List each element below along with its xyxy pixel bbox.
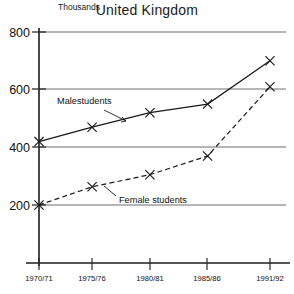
x-tick-label-1985-86: 1985/86 [193,274,220,283]
data-point-marker [88,123,97,132]
chart-plot-area: 800 600 400 200 1970/71 1975/76 1980/81 … [0,0,294,294]
y-tick-label-800: 800 [9,26,30,40]
x-tick-label-1991-92: 1991/92 [256,274,283,283]
chart-container: United Kingdom Thousands 800 600 400 200… [0,0,294,294]
y-tick-label-600: 600 [9,83,30,97]
female-label-leader [104,186,116,196]
data-point-marker [145,170,154,179]
data-point-marker [265,82,274,91]
series-label-male: Malestudents [57,96,112,106]
x-tick-label-1975-76: 1975/76 [78,274,105,283]
male-label-leader [104,110,126,121]
data-point-marker [203,151,212,160]
data-point-marker [88,182,97,191]
y-tick-label-400: 400 [9,141,30,155]
x-tick-label-1980-81: 1980/81 [136,274,163,283]
series-label-female: Female students [119,195,187,205]
data-point-marker [265,56,274,65]
x-tick-label-1970-71: 1970/71 [25,274,52,283]
data-series-layer [34,56,274,209]
y-tick-label-200: 200 [9,199,30,213]
